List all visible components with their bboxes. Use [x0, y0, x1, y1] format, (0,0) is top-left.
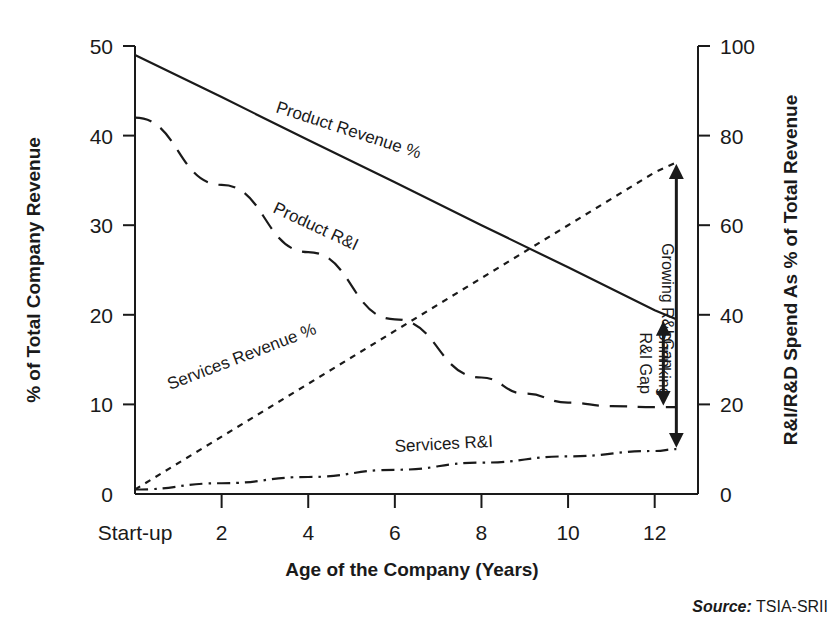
x-tick-label: 6: [389, 521, 401, 544]
y2-tick-label: 40: [720, 304, 743, 327]
x-tick-label: 2: [216, 521, 228, 544]
y2-tick-label: 100: [720, 35, 755, 58]
chart-figure: 01020304050 020406080100 Start-up2468101…: [0, 0, 833, 623]
y-tick-label: 40: [90, 125, 113, 148]
x-tick-label: 10: [556, 521, 579, 544]
y-tick-label: 0: [101, 483, 113, 506]
y2-axis-title: R&I/R&D Spend As % of Total Revenue: [780, 95, 801, 445]
y2-tick-label: 60: [720, 214, 743, 237]
source-prefix: Source:: [692, 598, 752, 615]
y-tick-label: 10: [90, 393, 113, 416]
y2-tick-label: 0: [720, 483, 732, 506]
x-axis-title: Age of the Company (Years): [285, 559, 538, 580]
y-tick-label: 30: [90, 214, 113, 237]
y-axis-title: % of Total Company Revenue: [23, 137, 44, 403]
x-tick-label: 12: [643, 521, 666, 544]
y2-tick-label: 20: [720, 393, 743, 416]
x-tick-label: 8: [476, 521, 488, 544]
gap-annotation-label: R&I Gap: [637, 333, 654, 394]
y-tick-label: 20: [90, 304, 113, 327]
gap-annotation-label: Shrinking: [656, 330, 673, 397]
y2-tick-label: 80: [720, 125, 743, 148]
source-note: Source: TSIA-SRII: [692, 598, 828, 615]
x-tick-label: Start-up: [98, 521, 173, 544]
x-tick-label: 4: [302, 521, 314, 544]
source-value: TSIA-SRII: [752, 598, 828, 615]
chart-canvas: 01020304050 020406080100 Start-up2468101…: [0, 0, 833, 623]
y-tick-label: 50: [90, 35, 113, 58]
